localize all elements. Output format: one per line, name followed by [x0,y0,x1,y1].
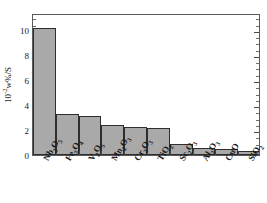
y-tick-label: 4 [25,102,30,111]
subscript: 2 [257,145,265,151]
subscript: 2 [141,148,149,154]
bar [33,28,56,156]
subscript: 2 [186,149,194,155]
y-axis-label-suffix: w%/S [3,67,13,89]
bar-chart-figure: 10-2w%/S 0246810 Nb2O5Fe3O4V2O5Mn2O3Cr2O… [0,0,267,203]
subscript: 2 [51,147,59,153]
y-tick-label: 0 [25,152,30,161]
subscript: 3 [72,149,80,155]
subscript: 2 [209,149,217,155]
y-axis-tick-labels: 0246810 [12,14,29,156]
y-tick-label: 10 [20,27,29,36]
plot-area [32,14,260,156]
subscript: 2 [120,145,128,151]
y-tick-label: 6 [25,77,30,86]
y-tick-label: 8 [25,52,30,61]
y-tick-label: 2 [25,127,30,136]
y-axis-label-prefix: 10 [3,94,13,103]
x-axis-tick [238,151,239,155]
subscript: 2 [94,151,102,157]
bar-series [33,15,259,155]
y-axis-label-exponent: -2 [1,89,8,94]
x-axis-category-labels: Nb2O5Fe3O4V2O5Mn2O3Cr2O3TiO2Sc2O3Al2O3Cu… [32,156,260,203]
y-axis-label: 10-2w%/S [2,67,13,103]
